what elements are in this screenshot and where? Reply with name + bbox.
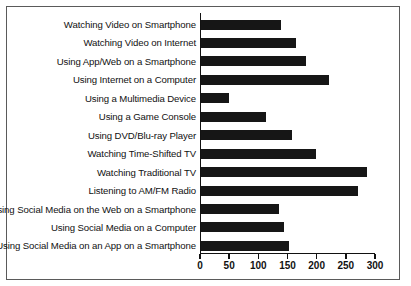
bar-row: Listening to AM/FM Radio: [7, 181, 399, 200]
bar-category-label: Using a Multimedia Device: [85, 89, 196, 108]
bar: [201, 112, 266, 122]
bar-row: Using DVD/Blu-ray Player: [7, 126, 399, 145]
bar-row: Watching Time-Shifted TV: [7, 144, 399, 163]
tick-mark: [258, 254, 259, 259]
chart-figure: Watching Video on SmartphoneWatching Vid…: [6, 6, 400, 280]
bar: [201, 75, 329, 85]
tick-mark: [287, 254, 288, 259]
bar: [201, 167, 367, 177]
bar-category-label: Using Social Media on an App on a Smartp…: [0, 236, 196, 255]
bar-row: Using a Multimedia Device: [7, 89, 399, 108]
bar-row: Using Social Media on a Computer: [7, 218, 399, 237]
bar: [201, 204, 279, 214]
bar: [201, 149, 316, 159]
bar-category-label: Using DVD/Blu-ray Player: [88, 126, 196, 145]
bar: [201, 222, 284, 232]
tick-mark: [199, 254, 200, 259]
bar-row: Using App/Web on a Smartphone: [7, 52, 399, 71]
tick-mark: [345, 254, 346, 259]
bar-category-label: Using a Game Console: [99, 107, 196, 126]
bar-row: Using Social Media on the Web on a Smart…: [7, 200, 399, 219]
bar: [201, 38, 296, 48]
bar-category-label: Listening to AM/FM Radio: [89, 181, 196, 200]
bar: [201, 241, 289, 251]
bar-category-label: Watching Traditional TV: [97, 163, 196, 182]
bar: [201, 93, 229, 103]
bar-category-label: Watching Video on Internet: [83, 33, 196, 52]
tick-mark: [374, 254, 375, 259]
bar-category-label: Watching Video on Smartphone: [64, 15, 196, 34]
plot-area: Watching Video on SmartphoneWatching Vid…: [7, 7, 399, 279]
bar-category-label: Using Internet on a Computer: [73, 70, 196, 89]
bar: [201, 186, 358, 196]
bar: [201, 56, 306, 66]
bar-category-label: Using App/Web on a Smartphone: [57, 52, 196, 71]
tick-label: 300: [353, 260, 397, 271]
bar: [201, 130, 292, 140]
bar-row: Using Internet on a Computer: [7, 70, 399, 89]
bar-row: Watching Traditional TV: [7, 163, 399, 182]
tick-mark: [228, 254, 229, 259]
tick-mark: [316, 254, 317, 259]
bar: [201, 20, 281, 30]
bar-row: Watching Video on Internet: [7, 33, 399, 52]
bar-category-label: Watching Time-Shifted TV: [87, 144, 196, 163]
bar-row: Using Social Media on an App on a Smartp…: [7, 236, 399, 255]
bar-category-label: Using Social Media on the Web on a Smart…: [0, 200, 196, 219]
bar-category-label: Using Social Media on a Computer: [51, 218, 196, 237]
bar-row: Using a Game Console: [7, 107, 399, 126]
bar-row: Watching Video on Smartphone: [7, 15, 399, 34]
